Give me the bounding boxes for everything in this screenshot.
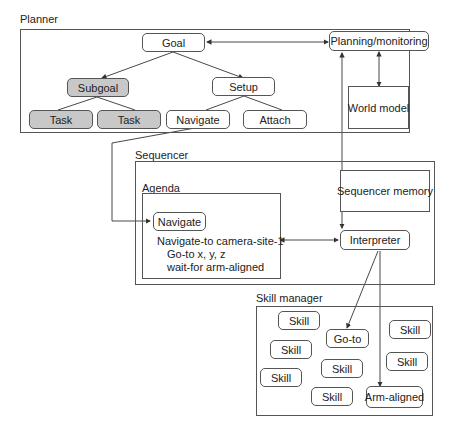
skill-node: Skill [260,368,302,387]
attach-node: Attach [243,110,307,129]
agenda-line-3: wait-for arm-aligned [167,261,264,274]
arm-aligned-node: Arm-aligned [366,386,423,408]
sequencer-memory-node: Sequencer memory [340,170,430,212]
setup-node: Setup [212,77,275,96]
skill-node: Skill [311,387,353,406]
skill-node: Skill [270,340,312,359]
goto-node: Go-to [326,329,369,348]
planning-monitoring-node: Planning/monitoring [329,31,429,51]
skill-node: Skill [389,320,431,339]
task-node-2: Task [97,110,161,129]
task-node-1: Task [29,110,93,129]
skill-node: Skill [321,359,363,378]
agenda-line-1: Navigate-to camera-site-1 [157,235,284,248]
skill-node: Skill [278,311,320,330]
subgoal-node: Subgoal [67,78,129,97]
planner-navigate-node: Navigate [166,110,230,129]
world-model-node: World model [348,86,409,129]
agenda-navigate-node: Navigate [153,212,206,231]
planner-label: Planner [20,13,58,25]
goal-node: Goal [142,33,205,52]
agenda-line-2: Go-to x, y, z [167,248,225,261]
skill-manager-label: Skill manager [256,292,323,304]
skill-node: Skill [386,352,428,371]
interpreter-node: Interpreter [340,230,410,250]
sequencer-label: Sequencer [135,149,188,161]
